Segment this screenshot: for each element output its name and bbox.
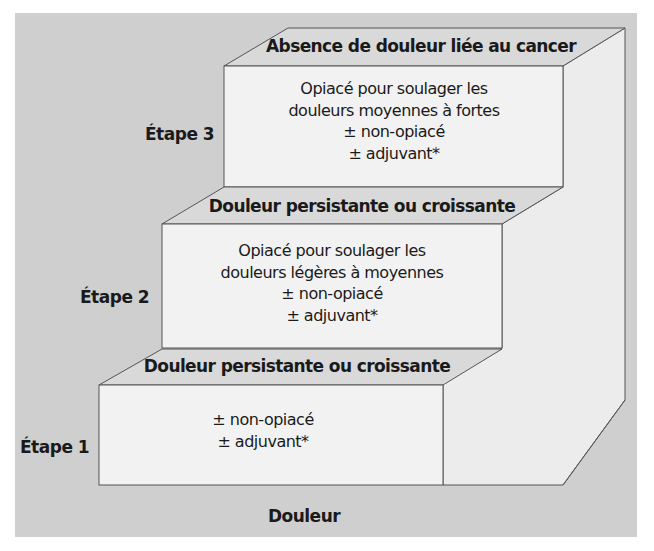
step-3-line: ± adjuvant* xyxy=(288,143,499,165)
step-3-line: ± non-opiacé xyxy=(288,121,499,143)
step-1-line: ± non-opiacé xyxy=(212,409,313,431)
step-1-line: ± adjuvant* xyxy=(212,431,313,453)
step-1-label: Étape 1 xyxy=(20,437,89,457)
step-1-description: ± non-opiacé ± adjuvant* xyxy=(212,409,313,452)
baseline-label: Douleur xyxy=(268,506,340,526)
step-3-top-label: Absence de douleur liée au cancer xyxy=(266,36,576,56)
step-2-label: Étape 2 xyxy=(80,287,149,307)
step-3-label: Étape 3 xyxy=(145,124,214,144)
step-2-top-label: Douleur persistante ou croissante xyxy=(209,196,515,216)
step-2-description: Opiacé pour soulager les douleurs légère… xyxy=(221,240,444,326)
step-3-line: Opiacé pour soulager les xyxy=(288,78,499,100)
step-2-line: ± non-opiacé xyxy=(221,283,444,305)
step-2-line: douleurs légères à moyennes xyxy=(221,262,444,284)
step-3-line: douleurs moyennes à fortes xyxy=(288,100,499,122)
step-1-top-label: Douleur persistante ou croissante xyxy=(144,356,450,376)
pain-ladder-diagram: Absence de douleur liée au cancer Opiacé… xyxy=(0,0,654,551)
step-3-description: Opiacé pour soulager les douleurs moyenn… xyxy=(288,78,499,164)
step-2-line: Opiacé pour soulager les xyxy=(221,240,444,262)
step-2-line: ± adjuvant* xyxy=(221,305,444,327)
